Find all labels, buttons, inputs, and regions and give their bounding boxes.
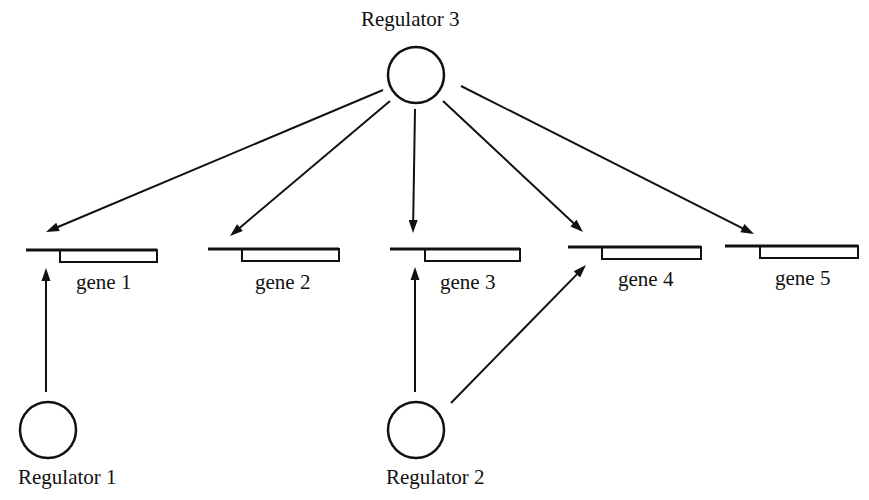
gene-label: gene 4 — [618, 269, 673, 290]
arrowhead-icon — [42, 268, 51, 281]
genes-group — [26, 246, 858, 262]
regulator-node-reg1 — [20, 402, 76, 458]
regulator-label: Regulator 2 — [386, 467, 485, 488]
arrow-reg3-to-gene3 — [413, 109, 415, 222]
gene-label: gene 3 — [440, 272, 495, 293]
arrow-reg3-to-gene1 — [56, 90, 383, 228]
arrowhead-icon — [740, 224, 754, 234]
gene-label: gene 5 — [775, 268, 830, 289]
arrowhead-icon — [411, 267, 420, 280]
regulator-label: Regulator 1 — [18, 467, 117, 488]
arrow-reg3-to-gene4 — [443, 101, 575, 224]
edges-group — [42, 86, 755, 403]
arrowhead-icon — [46, 223, 60, 232]
gene-box — [242, 249, 339, 261]
gene-regulation-diagram — [0, 0, 869, 500]
gene-box — [602, 247, 701, 259]
arrowhead-icon — [409, 220, 418, 233]
arrow-reg3-to-gene2 — [238, 101, 390, 229]
gene-gene5 — [725, 246, 858, 258]
gene-gene2 — [208, 249, 339, 261]
gene-gene1 — [26, 250, 157, 262]
gene-gene3 — [390, 249, 520, 261]
regulator-node-reg2 — [388, 402, 444, 458]
gene-label: gene 1 — [76, 272, 131, 293]
regulator-node-reg3 — [388, 47, 444, 103]
regulator-label: Regulator 3 — [361, 9, 460, 30]
gene-gene4 — [568, 247, 701, 259]
gene-box — [60, 250, 157, 262]
gene-box — [760, 246, 858, 258]
gene-label: gene 2 — [255, 272, 310, 293]
gene-box — [425, 249, 520, 261]
